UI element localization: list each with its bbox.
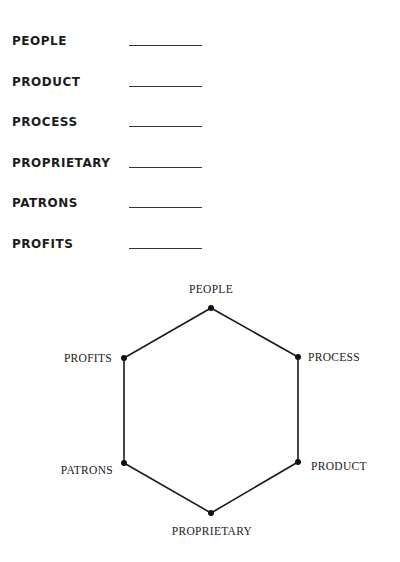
hexagon-outline bbox=[124, 308, 298, 513]
vertex-label-profits: PROFITS bbox=[64, 352, 112, 364]
vertex-dot-bottom bbox=[208, 510, 214, 516]
vertex-label-patrons: PATRONS bbox=[61, 464, 113, 476]
vertex-label-people: PEOPLE bbox=[189, 283, 233, 295]
vertex-label-process: PROCESS bbox=[308, 351, 360, 363]
vertex-dot-upper-left bbox=[121, 355, 127, 361]
vertex-label-proprietary: PROPRIETARY bbox=[172, 525, 253, 537]
vertex-dot-lower-right bbox=[295, 459, 301, 465]
vertex-dot-top bbox=[208, 305, 214, 311]
vertex-label-product: PRODUCT bbox=[311, 460, 367, 472]
hexagon-diagram: PEOPLE PROCESS PRODUCT PROPRIETARY PATRO… bbox=[0, 0, 400, 562]
vertex-dots bbox=[121, 305, 301, 516]
vertex-dot-upper-right bbox=[295, 354, 301, 360]
vertex-dot-lower-left bbox=[121, 460, 127, 466]
